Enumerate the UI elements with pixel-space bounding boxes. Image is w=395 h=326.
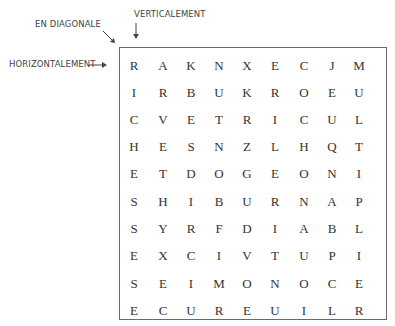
grid-cell: R: [209, 304, 229, 318]
grid-cell: O: [237, 277, 257, 291]
grid-cell: T: [349, 140, 369, 154]
grid-cell: A: [294, 222, 314, 236]
grid-cell: B: [181, 86, 201, 100]
grid-cell: T: [153, 167, 173, 181]
grid-cell: U: [294, 249, 314, 263]
grid-cell: U: [322, 113, 342, 127]
grid-cell: L: [349, 113, 369, 127]
horizontal-arrow-icon: [88, 60, 110, 70]
label-diagonal: EN DIAGONALE: [35, 19, 101, 29]
grid-cell: P: [349, 195, 369, 209]
grid-cell: I: [349, 249, 369, 263]
grid-cell: D: [181, 167, 201, 181]
grid-cell: U: [209, 86, 229, 100]
grid-cell: H: [153, 195, 173, 209]
grid-cell: L: [349, 222, 369, 236]
grid-cell: U: [237, 195, 257, 209]
grid-cell: I: [265, 222, 285, 236]
grid-cell: E: [124, 304, 144, 318]
grid-cell: R: [153, 86, 173, 100]
grid-cell: E: [153, 140, 173, 154]
grid-cell: E: [124, 167, 144, 181]
grid-cell: O: [294, 167, 314, 181]
grid-cell: I: [349, 167, 369, 181]
grid-cell: L: [265, 140, 285, 154]
grid-cell: I: [181, 195, 201, 209]
grid-cell: G: [237, 167, 257, 181]
grid-cell: H: [294, 140, 314, 154]
grid-cell: A: [153, 59, 173, 73]
grid-cell: N: [322, 167, 342, 181]
grid-cell: B: [322, 222, 342, 236]
grid-cell: Q: [322, 140, 342, 154]
grid-cell: C: [181, 249, 201, 263]
grid-cell: H: [124, 140, 144, 154]
grid-cell: C: [294, 59, 314, 73]
grid-cell: S: [124, 277, 144, 291]
grid-cell: I: [265, 113, 285, 127]
grid-cell: T: [209, 113, 229, 127]
grid-cell: S: [181, 140, 201, 154]
word-search-grid: RAKNXECJMIRBUKROEUCVETRICULHESNZLHQTETDO…: [119, 47, 387, 320]
grid-cell: U: [265, 304, 285, 318]
grid-cell: X: [237, 59, 257, 73]
grid-cell: N: [294, 195, 314, 209]
grid-cell: E: [265, 167, 285, 181]
grid-cell: S: [124, 222, 144, 236]
grid-cell: I: [209, 249, 229, 263]
grid-cell: T: [265, 249, 285, 263]
grid-cell: J: [322, 59, 342, 73]
grid-cell: S: [124, 195, 144, 209]
grid-cell: O: [209, 167, 229, 181]
grid-cell: C: [294, 113, 314, 127]
grid-cell: E: [124, 249, 144, 263]
label-vertical: VERTICALEMENT: [134, 9, 206, 19]
grid-cell: I: [181, 277, 201, 291]
grid-cell: I: [124, 86, 144, 100]
grid-cell: N: [209, 140, 229, 154]
diagonal-arrow-icon: [100, 28, 120, 48]
grid-cell: R: [265, 86, 285, 100]
grid-cell: P: [322, 249, 342, 263]
grid-cell: L: [322, 304, 342, 318]
grid-cell: X: [153, 249, 173, 263]
grid-cell: F: [209, 222, 229, 236]
grid-cell: O: [294, 86, 314, 100]
grid-cell: C: [153, 304, 173, 318]
grid-cell: Y: [153, 222, 173, 236]
grid-cell: M: [349, 59, 369, 73]
grid-cell: R: [265, 195, 285, 209]
grid-cell: I: [294, 304, 314, 318]
grid-cell: R: [237, 113, 257, 127]
grid-cell: U: [349, 86, 369, 100]
grid-cell: U: [181, 304, 201, 318]
grid-cell: E: [181, 113, 201, 127]
grid-cell: R: [349, 304, 369, 318]
grid-cell: K: [181, 59, 201, 73]
grid-cell: V: [153, 113, 173, 127]
vertical-arrow-icon: [131, 22, 141, 42]
grid-cell: R: [181, 222, 201, 236]
grid-cell: V: [237, 249, 257, 263]
grid-cell: C: [124, 113, 144, 127]
grid-cell: O: [294, 277, 314, 291]
grid-cell: R: [124, 59, 144, 73]
grid-cell: E: [265, 59, 285, 73]
grid-cell: E: [322, 86, 342, 100]
grid-cell: A: [322, 195, 342, 209]
grid-cell: E: [349, 277, 369, 291]
grid-cell: E: [153, 277, 173, 291]
grid-cell: K: [237, 86, 257, 100]
grid-cell: N: [265, 277, 285, 291]
grid-cell: Z: [237, 140, 257, 154]
grid-cell: M: [209, 277, 229, 291]
grid-cell: E: [237, 304, 257, 318]
grid-cell: C: [322, 277, 342, 291]
label-horizontal: HORIZONTALEMENT: [9, 59, 96, 69]
grid-cell: B: [209, 195, 229, 209]
grid-cell: N: [209, 59, 229, 73]
grid-cell: D: [237, 222, 257, 236]
